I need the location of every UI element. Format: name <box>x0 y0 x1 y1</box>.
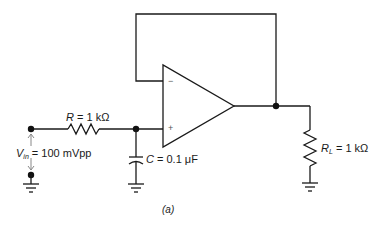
noninverting-input-sign: + <box>168 124 173 133</box>
capacitor-label: C = 0.1 μF <box>146 154 198 165</box>
output-wire <box>234 106 310 130</box>
capacitor <box>129 129 143 184</box>
load-ground-icon <box>302 183 318 191</box>
input-node <box>28 126 34 132</box>
vin-value: = 100 mVpp <box>32 147 92 159</box>
vin-ground-icon <box>23 175 39 192</box>
capacitor-value: = 0.1 μF <box>157 153 198 165</box>
load-resistor-subscript: L <box>329 148 333 155</box>
capacitor-symbol: C <box>146 153 154 165</box>
figure-caption: (a) <box>162 205 174 215</box>
input-wire <box>31 124 163 134</box>
resistor-symbol: R <box>66 111 74 123</box>
resistor-label: R = 1 kΩ <box>66 112 109 123</box>
vin-label: Vin = 100 mVpp <box>16 148 91 160</box>
circuit-schematic <box>0 0 379 233</box>
vin-subscript: in <box>23 153 28 160</box>
output-node <box>273 103 279 109</box>
resistor-value: = 1 kΩ <box>77 111 109 123</box>
load-resistor-symbol: R <box>321 142 329 154</box>
load-resistor <box>304 130 316 183</box>
capacitor-ground-icon <box>128 184 144 192</box>
inverting-input-sign: − <box>168 77 173 86</box>
load-resistor-label: RL = 1 kΩ <box>321 143 368 155</box>
op-amp <box>163 65 234 147</box>
feedback-wire <box>136 14 276 106</box>
load-resistor-value: = 1 kΩ <box>336 142 368 154</box>
